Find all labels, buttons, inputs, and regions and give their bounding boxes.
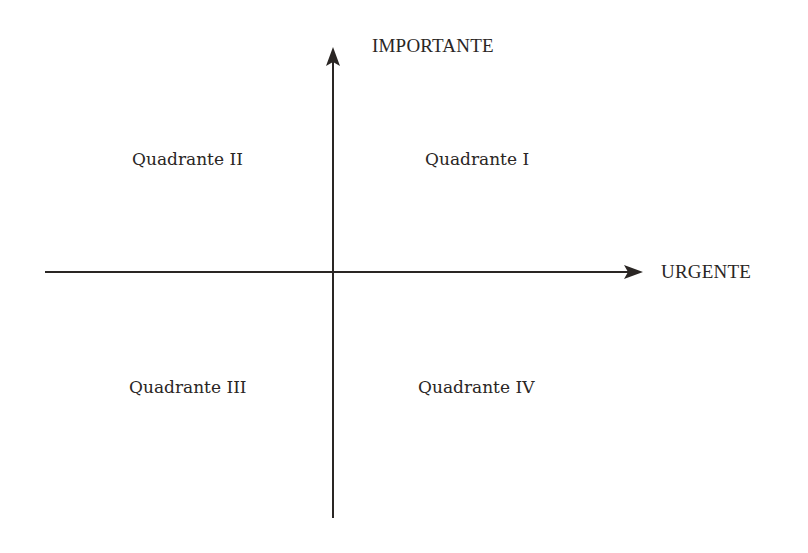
quadrant-ii-label: Quadrante II <box>132 151 243 168</box>
quadrant-diagram: IMPORTANTE URGENTE Quadrante II Quadrant… <box>0 0 808 553</box>
quadrant-i-label: Quadrante I <box>425 151 529 168</box>
quadrant-iv-label: Quadrante IV <box>418 379 534 396</box>
vertical-axis-label: IMPORTANTE <box>372 36 494 55</box>
quadrant-iii-label: Quadrante III <box>129 379 247 396</box>
horizontal-axis-label: URGENTE <box>661 262 751 281</box>
